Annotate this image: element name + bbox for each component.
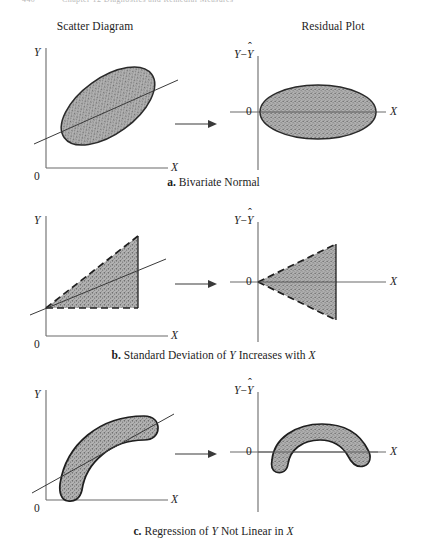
caption-b: b. Standard Deviation of Y Increases wit… <box>0 349 427 361</box>
panel-c-data-region <box>60 416 158 501</box>
panel-b-scatter-y-label: Y <box>34 214 40 226</box>
right-arrow-icon <box>175 118 217 130</box>
panel-a-residual-zero: 0 <box>246 105 252 117</box>
caption-c-seg-2: Not Linear in <box>218 525 286 537</box>
residual-label-yhat: Y <box>247 48 253 60</box>
figure-row-b: Y X 0 Y−Y X 0 <box>0 196 427 364</box>
panel-b-residual-zero: 0 <box>246 275 252 287</box>
caption-c: c. Regression of Y Not Linear in X <box>0 525 427 537</box>
panel-b-residual-y-label: Y−Y <box>234 214 253 226</box>
panel-b-residual-x-label: X <box>390 275 397 287</box>
panel-c-scatter-origin: 0 <box>34 502 40 514</box>
caption-b-seg-3: X <box>308 349 315 361</box>
panel-c-residual-x-label: X <box>390 445 397 457</box>
figure-row-a: Scatter Diagram <box>0 20 427 192</box>
residual-label-yhat: Y <box>247 214 253 226</box>
panel-b-scatter-x-label: X <box>171 329 178 341</box>
page-folio: 440 <box>22 0 35 4</box>
panel-c-residual-y-label: Y−Y <box>234 384 253 396</box>
panel-a-residual-x-label: X <box>390 105 397 117</box>
panel-b-residual: Y−Y X 0 <box>218 196 423 364</box>
right-arrow-icon <box>175 278 217 290</box>
caption-a: a. Bivariate Normal <box>0 176 427 188</box>
caption-a-text: Bivariate Normal <box>176 176 260 188</box>
panel-c-residual-plot <box>218 372 423 542</box>
residual-label-yhat: Y <box>247 384 253 396</box>
right-arrow-icon <box>175 448 217 460</box>
caption-b-seg-0: Standard Deviation of <box>121 349 229 361</box>
caption-a-lead: a. <box>167 176 176 188</box>
figure-row-c: Y X 0 Y−Y X 0 <box>0 372 427 542</box>
caption-b-lead: b. <box>111 349 120 361</box>
panel-c-residual: Y−Y X 0 <box>218 372 423 542</box>
row-b-arrow <box>175 278 217 290</box>
panel-a-scatter-y-label: Y <box>34 46 40 58</box>
page-running-head: 440 Chapter 12 Diagnostics and Remedial … <box>0 0 427 4</box>
panel-a-residual-y-label: Y−Y <box>234 48 253 60</box>
caption-c-seg-3: X <box>286 525 293 537</box>
panel-a-residual: Residual Plot Y−Y X 0 <box>218 20 423 192</box>
panel-c-residual-region <box>271 424 370 473</box>
running-head-text: Chapter 12 Diagnostics and Remedial Meas… <box>62 0 234 4</box>
panel-c-scatter-y-label: Y <box>34 388 40 400</box>
panel-c-residual-zero: 0 <box>246 445 252 457</box>
row-c-arrow <box>175 448 217 460</box>
caption-c-lead: c. <box>133 525 141 537</box>
panel-a-scatter: Scatter Diagram <box>8 20 208 192</box>
caption-b-seg-2: Increases with <box>236 349 309 361</box>
panel-c-scatter-x-label: X <box>171 493 178 505</box>
panel-a-scatter-x-label: X <box>171 161 178 173</box>
caption-c-seg-0: Regression of <box>142 525 212 537</box>
panel-a-data-region <box>48 52 168 161</box>
row-a-arrow <box>175 118 217 130</box>
